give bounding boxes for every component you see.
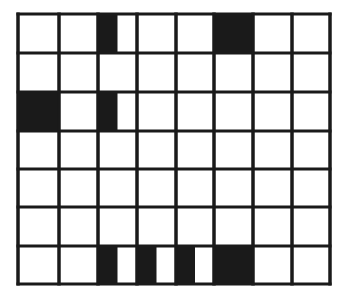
grid-lines (17, 13, 332, 286)
filled-cell (98, 246, 118, 284)
filled-cell (18, 92, 59, 131)
filled-cell (176, 246, 195, 284)
filled-cell (214, 246, 253, 284)
filled-cell (98, 14, 118, 53)
grid-diagram (0, 0, 346, 299)
filled-cell (98, 92, 118, 131)
filled-cell (137, 246, 157, 284)
filled-cell (214, 14, 253, 53)
